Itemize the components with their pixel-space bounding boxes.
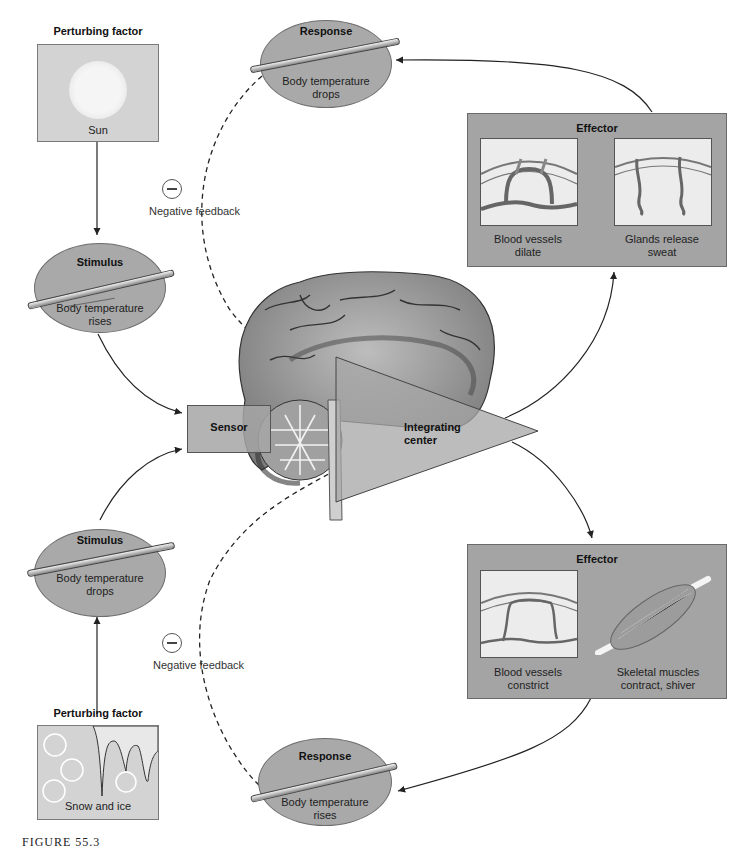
stimulus-ellipse-bottom: Stimulus Body temperature drops: [34, 529, 166, 617]
sun-icon: [69, 61, 127, 119]
dilated-vessels-icon: [481, 139, 577, 225]
stimulus-ellipse-top: Stimulus Body temperature rises: [34, 243, 166, 333]
response-ellipse-bottom: Response Body temperature rises: [258, 738, 392, 826]
effector-box-bottom: Effector Blood vessels constrict Skeleta…: [467, 544, 727, 699]
stimulus-title-bottom: Stimulus: [35, 534, 165, 546]
figure-caption: FIGURE 55.3: [22, 835, 100, 850]
perturbing-factor-snow-box: Snow and ice: [37, 725, 159, 820]
blood-vessels-dilate-panel: [480, 138, 578, 226]
effector-caption-shiver: Skeletal muscles contract, shiver: [598, 666, 718, 692]
response-title-top: Response: [261, 25, 391, 37]
blood-vessels-constrict-panel: [480, 570, 578, 658]
perturbing-factor-sun-box: Sun: [37, 44, 159, 142]
effector-caption-dilate: Blood vessels dilate: [480, 233, 576, 259]
stimulus-title-top: Stimulus: [35, 256, 165, 268]
integrating-center-label: Integrating center: [404, 421, 461, 447]
effector-title-top: Effector: [468, 122, 726, 134]
negative-feedback-label-bottom: Negative feedback: [153, 659, 244, 671]
response-ellipse-top: Response Body temperature drops: [260, 20, 392, 108]
glands-release-sweat-panel: [614, 138, 712, 226]
negative-feedback-icon-top: [162, 179, 182, 199]
negative-feedback-label-top: Negative feedback: [149, 205, 240, 217]
effector-title-bottom: Effector: [468, 553, 726, 565]
negative-feedback-icon-bottom: [162, 633, 182, 653]
stimulus-text-top: Body temperature rises: [35, 302, 165, 328]
skeletal-muscle-icon: [593, 575, 713, 655]
snow-label: Snow and ice: [38, 800, 158, 812]
effector-caption-constrict: Blood vessels constrict: [480, 666, 576, 692]
perturbing-factor-title-top: Perturbing factor: [37, 25, 159, 37]
constricted-vessels-icon: [481, 571, 577, 657]
effector-caption-sweat: Glands release sweat: [614, 233, 710, 259]
stimulus-text-bottom: Body temperature drops: [35, 572, 165, 598]
sensor-label: Sensor: [188, 421, 270, 433]
perturbing-factor-title-bottom: Perturbing factor: [37, 707, 159, 719]
thermometer-icon: [250, 38, 401, 74]
sensor-box: Sensor: [187, 405, 271, 453]
response-text-bottom: Body temperature rises: [259, 796, 391, 822]
sun-label: Sun: [38, 124, 158, 136]
effector-box-top: Effector Blood vessels dilate Glands rel…: [467, 113, 727, 267]
response-text-top: Body temperature drops: [261, 75, 391, 101]
sweat-glands-icon: [615, 139, 711, 225]
response-title-bottom: Response: [259, 750, 391, 762]
